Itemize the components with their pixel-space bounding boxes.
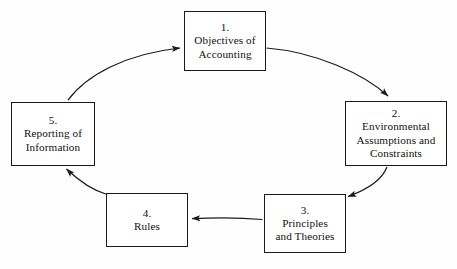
arrow-node5-to-node1 (68, 48, 180, 100)
node-1-line-2: Accounting (198, 48, 251, 61)
diagram-canvas: 1. Objectives of Accounting 2. Environme… (0, 0, 457, 269)
node-4-line-1: Rules (134, 220, 160, 233)
arrow-node2-to-node3 (348, 167, 387, 197)
node-3-number: 3. (301, 204, 310, 217)
arrow-node3-to-node4 (192, 218, 263, 220)
node-2-line-3: Constraints (370, 147, 422, 160)
node-5-number: 5. (49, 114, 58, 127)
node-objectives-of-accounting[interactable]: 1. Objectives of Accounting (184, 11, 266, 71)
node-5-line-1: Reporting of (24, 127, 82, 140)
arrow-node1-to-node2 (267, 48, 389, 96)
node-3-line-1: Principles (282, 217, 328, 230)
node-1-line-1: Objectives of (194, 34, 255, 47)
node-5-line-2: Information (26, 141, 81, 154)
node-2-line-1: Environmental (362, 120, 430, 133)
node-reporting-of-information[interactable]: 5. Reporting of Information (11, 102, 95, 166)
arrow-node4-to-node5 (67, 169, 108, 195)
node-2-line-2: Assumptions and (357, 134, 436, 147)
node-4-number: 4. (143, 207, 152, 220)
node-2-number: 2. (392, 107, 401, 120)
node-1-number: 1. (221, 21, 230, 34)
node-rules[interactable]: 4. Rules (106, 193, 188, 247)
node-3-line-2: and Theories (275, 230, 334, 243)
node-environmental-assumptions-and-constraints[interactable]: 2. Environmental Assumptions and Constra… (345, 101, 447, 166)
node-principles-and-theories[interactable]: 3. Principles and Theories (264, 194, 346, 253)
